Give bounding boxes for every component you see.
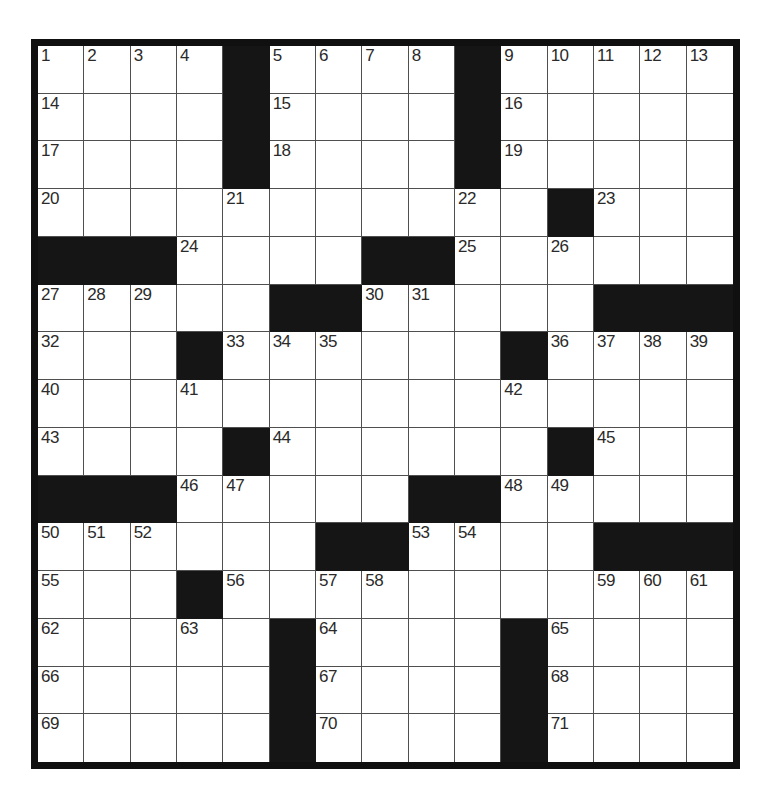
crossword-cell[interactable] [501,285,547,333]
crossword-cell[interactable] [687,189,733,237]
crossword-cell[interactable] [316,476,362,524]
crossword-cell[interactable] [687,94,733,142]
crossword-cell[interactable]: 21 [223,189,269,237]
crossword-cell[interactable] [409,94,455,142]
crossword-cell[interactable] [270,237,316,285]
crossword-cell[interactable] [548,141,594,189]
crossword-cell[interactable]: 35 [316,332,362,380]
crossword-cell[interactable]: 23 [594,189,640,237]
crossword-cell[interactable]: 38 [640,332,686,380]
crossword-cell[interactable]: 15 [270,94,316,142]
crossword-cell[interactable] [455,571,501,619]
crossword-cell[interactable] [270,523,316,571]
crossword-cell[interactable] [640,380,686,428]
crossword-cell[interactable]: 9 [501,46,547,94]
crossword-cell[interactable]: 28 [84,285,130,333]
crossword-cell[interactable] [501,428,547,476]
crossword-cell[interactable] [594,141,640,189]
crossword-cell[interactable]: 12 [640,46,686,94]
crossword-cell[interactable] [362,141,408,189]
crossword-cell[interactable] [409,714,455,762]
crossword-cell[interactable]: 58 [362,571,408,619]
crossword-cell[interactable] [501,571,547,619]
crossword-cell[interactable]: 60 [640,571,686,619]
crossword-cell[interactable]: 47 [223,476,269,524]
crossword-cell[interactable]: 45 [594,428,640,476]
crossword-cell[interactable]: 22 [455,189,501,237]
crossword-cell[interactable] [131,667,177,715]
crossword-cell[interactable] [84,141,130,189]
crossword-cell[interactable]: 49 [548,476,594,524]
crossword-cell[interactable] [501,189,547,237]
crossword-cell[interactable] [131,94,177,142]
crossword-cell[interactable] [640,237,686,285]
crossword-cell[interactable] [223,285,269,333]
crossword-cell[interactable] [409,380,455,428]
crossword-cell[interactable] [131,619,177,667]
crossword-cell[interactable] [316,94,362,142]
crossword-cell[interactable] [223,523,269,571]
crossword-cell[interactable] [455,285,501,333]
crossword-cell[interactable]: 24 [177,237,223,285]
crossword-cell[interactable]: 70 [316,714,362,762]
crossword-cell[interactable] [640,141,686,189]
crossword-cell[interactable]: 55 [38,571,84,619]
crossword-cell[interactable]: 59 [594,571,640,619]
crossword-cell[interactable] [270,380,316,428]
crossword-cell[interactable] [84,714,130,762]
crossword-cell[interactable] [362,714,408,762]
crossword-cell[interactable]: 52 [131,523,177,571]
crossword-cell[interactable] [177,714,223,762]
crossword-cell[interactable]: 31 [409,285,455,333]
crossword-cell[interactable]: 39 [687,332,733,380]
crossword-cell[interactable]: 64 [316,619,362,667]
crossword-cell[interactable] [640,189,686,237]
crossword-cell[interactable]: 65 [548,619,594,667]
crossword-cell[interactable] [177,428,223,476]
crossword-cell[interactable] [223,237,269,285]
crossword-cell[interactable] [687,714,733,762]
crossword-cell[interactable] [362,619,408,667]
crossword-cell[interactable] [640,619,686,667]
crossword-cell[interactable] [362,94,408,142]
crossword-cell[interactable]: 36 [548,332,594,380]
crossword-cell[interactable] [640,428,686,476]
crossword-cell[interactable] [594,619,640,667]
crossword-cell[interactable] [316,189,362,237]
crossword-cell[interactable]: 16 [501,94,547,142]
crossword-cell[interactable] [409,428,455,476]
crossword-cell[interactable] [640,476,686,524]
crossword-cell[interactable]: 2 [84,46,130,94]
crossword-cell[interactable]: 10 [548,46,594,94]
crossword-cell[interactable] [640,94,686,142]
crossword-cell[interactable] [455,332,501,380]
crossword-cell[interactable] [687,380,733,428]
crossword-cell[interactable]: 67 [316,667,362,715]
crossword-cell[interactable]: 51 [84,523,130,571]
crossword-cell[interactable] [501,237,547,285]
crossword-cell[interactable]: 3 [131,46,177,94]
crossword-cell[interactable] [84,428,130,476]
crossword-cell[interactable] [177,94,223,142]
crossword-cell[interactable] [409,571,455,619]
crossword-cell[interactable]: 30 [362,285,408,333]
crossword-cell[interactable] [84,189,130,237]
crossword-cell[interactable] [223,714,269,762]
crossword-cell[interactable]: 18 [270,141,316,189]
crossword-cell[interactable] [548,571,594,619]
crossword-cell[interactable]: 7 [362,46,408,94]
crossword-cell[interactable] [177,667,223,715]
crossword-cell[interactable]: 50 [38,523,84,571]
crossword-cell[interactable] [594,714,640,762]
crossword-cell[interactable] [84,94,130,142]
crossword-cell[interactable] [594,667,640,715]
crossword-cell[interactable]: 13 [687,46,733,94]
crossword-cell[interactable] [548,523,594,571]
crossword-cell[interactable] [409,141,455,189]
crossword-cell[interactable] [316,141,362,189]
crossword-cell[interactable] [455,380,501,428]
crossword-cell[interactable] [316,237,362,285]
crossword-cell[interactable] [362,189,408,237]
crossword-cell[interactable]: 61 [687,571,733,619]
crossword-cell[interactable] [409,189,455,237]
